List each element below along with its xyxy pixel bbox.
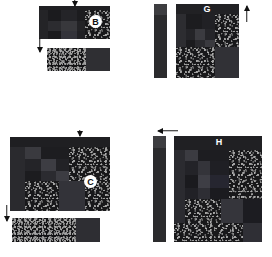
panel-c-strip-image[interactable] xyxy=(12,218,100,242)
tile-low-right xyxy=(77,31,86,39)
panel-c-label-badge: C xyxy=(84,175,97,188)
tile-mid-a xyxy=(186,29,195,39)
arrow-head xyxy=(77,131,83,137)
tile-low-a xyxy=(185,188,197,199)
panel-g-label-text: G xyxy=(201,5,213,14)
tile-low-c xyxy=(210,188,229,199)
tile-upper-mid xyxy=(41,147,69,160)
arrow-head xyxy=(4,216,10,222)
tile-upper-left xyxy=(185,150,197,162)
tile-mid-d xyxy=(185,175,197,188)
tile-speckle-lower xyxy=(185,199,220,223)
tile-upper-right2 xyxy=(202,14,215,29)
tile-upper-left xyxy=(25,147,41,160)
strip-solid xyxy=(76,218,100,242)
panel-c-label-text: C xyxy=(87,177,94,187)
panel-h-top-left-arrow xyxy=(158,127,178,134)
panel-b-top-tick-marker xyxy=(71,0,78,6)
tile-upper-mid xyxy=(198,150,230,162)
panel-h-sidebar-strip[interactable] xyxy=(153,136,166,242)
panel-g-image[interactable] xyxy=(176,4,239,78)
panel-c-top-tick-marker xyxy=(76,130,83,136)
tile-left-column xyxy=(39,10,48,39)
tile-low-c xyxy=(56,171,69,181)
arrow-head xyxy=(244,5,250,11)
tile-mid-right xyxy=(77,21,86,31)
panel-h-sidebar-cap xyxy=(153,136,166,148)
panel-c-left-down-arrow xyxy=(3,205,10,221)
panel-h-label-text: H xyxy=(213,138,225,147)
tile-mid-e xyxy=(198,175,210,188)
panel-g-right-up-arrow xyxy=(243,6,250,22)
tile-bottom-speckle xyxy=(174,223,243,242)
tile-low-center xyxy=(61,31,77,39)
strip-speckle xyxy=(47,48,86,71)
tile-mid-a xyxy=(25,159,41,171)
tile-mid-center xyxy=(61,21,77,31)
tile-mid-b xyxy=(41,159,56,171)
tile-upper-left xyxy=(48,10,61,21)
arrow-head xyxy=(157,128,163,134)
arrow-head xyxy=(37,47,43,53)
tile-upper-right xyxy=(77,10,86,21)
tile-mid-left xyxy=(48,21,61,31)
panel-h-image[interactable] xyxy=(174,136,262,242)
tile-mid-c xyxy=(210,161,229,175)
figure-root: B G C H xyxy=(0,0,272,257)
tile-low-left xyxy=(48,31,61,39)
tile-mid-c xyxy=(205,29,215,39)
tile-mid-c xyxy=(56,159,69,171)
panel-c-image[interactable] xyxy=(10,137,110,211)
tile-lower-mid xyxy=(221,199,243,223)
tile-low-a xyxy=(25,171,41,181)
tile-left-column xyxy=(176,14,186,47)
arrow-head xyxy=(72,1,78,7)
tile-low-b xyxy=(41,171,56,181)
tile-lower-right xyxy=(243,199,262,223)
tile-speckle-right xyxy=(229,150,262,199)
tile-left-column xyxy=(10,147,25,211)
strip-speckle xyxy=(12,218,76,242)
tile-low-a xyxy=(186,40,195,47)
panel-b-label-text: B xyxy=(92,17,99,27)
panel-b-strip-image[interactable] xyxy=(47,48,110,71)
tile-lower-right xyxy=(215,47,239,78)
tile-bottom-right xyxy=(243,223,262,242)
panel-g-sidebar-cap xyxy=(154,4,167,15)
tile-mid-a xyxy=(185,161,197,175)
tile-speckle-right xyxy=(215,14,239,47)
tile-mid-f xyxy=(210,175,229,188)
panel-b-left-down-arrow xyxy=(36,38,43,52)
tile-low-b xyxy=(198,188,210,199)
tile-low-c xyxy=(205,40,215,47)
tile-lower-mid xyxy=(59,181,85,211)
tile-upper-mid xyxy=(61,10,77,21)
tile-upper-mid xyxy=(186,14,202,29)
tile-speckle-lower xyxy=(25,181,59,211)
tile-mid-b xyxy=(198,161,210,175)
tile-mid-b xyxy=(195,29,205,39)
panel-g-sidebar-strip[interactable] xyxy=(154,4,167,78)
tile-header-band xyxy=(10,137,110,147)
tile-low-b xyxy=(195,40,205,47)
tile-speckle-lower xyxy=(176,47,215,78)
strip-solid xyxy=(86,48,110,71)
panel-b-label-badge: B xyxy=(89,15,102,28)
